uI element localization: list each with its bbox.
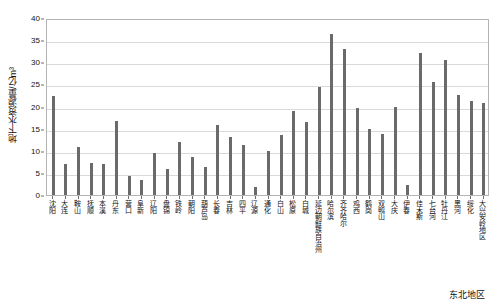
x-axis-tick-label: 抚顺 (87, 200, 94, 213)
bar-slot (237, 20, 250, 195)
x-axis-tick-label: 黑河 (454, 200, 461, 213)
bar[interactable] (52, 96, 55, 195)
bar[interactable] (305, 122, 308, 195)
x-axis-tickmark (356, 196, 357, 199)
x-axis-tickmark (280, 196, 281, 199)
x-axis-tickmark (141, 196, 142, 199)
x-axis-tickmark (457, 196, 458, 199)
x-axis-tick-label: 铁岭 (175, 200, 182, 213)
x-axis-tickmark (445, 196, 446, 199)
x-axis-title: 东北地区 (449, 288, 485, 301)
bar[interactable] (457, 95, 460, 195)
x-axis-tick-label: 绥化 (467, 200, 474, 213)
y-axis-tick-label: 30 (31, 59, 40, 67)
x-axis-tick-label: 葫芦岛 (201, 200, 208, 220)
groundwater-bar-chart: 地下水资源量/亿m³ 0510152025303540 沈阳大连鞍山抚顺本溪丹东… (0, 0, 497, 307)
bar-slot (85, 20, 98, 195)
x-axis-tickmark (407, 196, 408, 199)
bar-slot (224, 20, 237, 195)
bar[interactable] (330, 34, 333, 195)
bar[interactable] (254, 187, 257, 195)
bar-slot (376, 20, 389, 195)
bar[interactable] (115, 121, 118, 195)
bar[interactable] (368, 129, 371, 195)
y-axis-tickmark (41, 41, 44, 42)
x-axis-tick-label: 佳木斯 (416, 200, 423, 220)
x-axis-tickmark (419, 196, 420, 199)
x-axis-tick-label: 大连 (61, 200, 68, 213)
y-axis-tickmark (41, 173, 44, 174)
x-axis-tickmark (116, 196, 117, 199)
bar[interactable] (292, 111, 295, 195)
y-axis-tickmark (41, 151, 44, 152)
bar[interactable] (178, 142, 181, 195)
bar[interactable] (318, 87, 321, 195)
x-axis-tick-label: 延边朝鲜族自治州 (315, 200, 322, 253)
x-axis-tickmark (230, 196, 231, 199)
bar[interactable] (204, 167, 207, 195)
x-axis-tick-label: 朝阳 (188, 200, 195, 213)
bar[interactable] (191, 157, 194, 195)
x-axis-tick-label: 通化 (264, 200, 271, 213)
x-axis-labels: 沈阳大连鞍山抚顺本溪丹东营口阜新辽阳盘锦铁岭朝阳葫芦岛长春吉林四平辽源通化白山松… (46, 200, 489, 272)
bar[interactable] (64, 164, 67, 195)
y-axis-tick-label: 35 (31, 37, 40, 45)
x-axis-tick-label: 大兴安岭地区 (479, 200, 486, 240)
y-axis-tickmark (41, 19, 44, 20)
bar[interactable] (381, 134, 384, 195)
bar-slot (313, 20, 326, 195)
bar-slot (287, 20, 300, 195)
bar[interactable] (153, 153, 156, 195)
x-axis-tickmark (470, 196, 471, 199)
y-axis-tickmark (41, 107, 44, 108)
bar-slot (325, 20, 338, 195)
bar-slot (47, 20, 60, 195)
bar[interactable] (394, 107, 397, 195)
bar[interactable] (470, 101, 473, 195)
x-axis-tickmark (192, 196, 193, 199)
bar[interactable] (229, 137, 232, 195)
x-axis-tick-label: 白山 (277, 200, 284, 213)
x-axis-tick-label: 鸡西 (353, 200, 360, 213)
x-axis-tickmark (432, 196, 433, 199)
bar[interactable] (267, 151, 270, 195)
x-axis-tick-label: 沈阳 (49, 200, 56, 213)
bar[interactable] (432, 82, 435, 195)
bar[interactable] (406, 185, 409, 195)
x-axis-tick-label: 长春 (213, 200, 220, 213)
bar[interactable] (166, 169, 169, 195)
bar-slot (401, 20, 414, 195)
bar[interactable] (280, 135, 283, 195)
bar[interactable] (444, 60, 447, 195)
x-axis-tickmark (154, 196, 155, 199)
x-axis-tick-label: 吉林 (226, 200, 233, 213)
bar-slot (161, 20, 174, 195)
bar[interactable] (419, 53, 422, 195)
bar[interactable] (128, 176, 131, 195)
y-axis-tickmark (41, 129, 44, 130)
bar[interactable] (140, 180, 143, 195)
x-axis-tickmark (128, 196, 129, 199)
x-axis-tick-label: 大庆 (391, 200, 398, 213)
bar[interactable] (343, 49, 346, 195)
x-axis-tick-label: 双鸭山 (378, 200, 385, 220)
x-axis-tick-label: 辽源 (251, 200, 258, 213)
bar[interactable] (90, 163, 93, 195)
y-axis-tick-label: 25 (31, 81, 40, 89)
bar[interactable] (77, 147, 80, 195)
y-axis-tick-label: 0 (36, 192, 40, 200)
bar-slot (414, 20, 427, 195)
bar[interactable] (356, 108, 359, 195)
x-axis-tick-label: 阜新 (137, 200, 144, 213)
x-axis-tickmark (166, 196, 167, 199)
bar[interactable] (242, 145, 245, 195)
bar[interactable] (482, 103, 485, 195)
bar-slot (174, 20, 187, 195)
x-axis-tickmark (293, 196, 294, 199)
y-axis-ticks: 0510152025303540 (18, 19, 44, 196)
bar-slot (98, 20, 111, 195)
bar-series (47, 20, 488, 195)
bar[interactable] (216, 125, 219, 195)
bar[interactable] (102, 164, 105, 195)
bar-slot (110, 20, 123, 195)
